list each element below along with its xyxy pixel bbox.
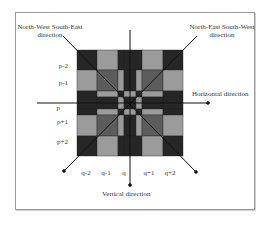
grid-cell [163,70,183,91]
grid-cell [136,115,142,136]
grid-cell [136,50,142,70]
grid-cell [163,115,183,136]
grid-cell [77,109,97,115]
row-label: p+2 [44,138,68,146]
vertical-direction-label: Vertical direction [102,190,150,198]
grid-cell [163,109,183,115]
grid-cell [97,109,118,115]
nw-se-label-line2: direction [14,31,86,39]
nw-se-direction-label: North-West South-East direction [14,23,86,39]
grid-cell [77,136,97,156]
grid-cell [97,70,118,91]
horizontal-direction-label: Horizontal direction [192,90,249,98]
nw-se-label-line1: North-West South-East [14,23,86,31]
col-label: q [118,169,130,177]
grid-cell [142,91,163,97]
row-label: p-1 [44,79,68,87]
grid-cell [136,70,142,91]
grid-cell [118,91,124,97]
grid-cell [97,91,118,97]
grid-cell [97,115,118,136]
grid-cell [118,136,124,156]
grid-cell [142,50,163,70]
ne-sw-label-line2: direction [186,31,258,39]
grid-cell [142,136,163,156]
row-label: p [44,104,60,112]
grid-cell [118,50,124,70]
ne-sw-direction-label: North-East South-West direction [186,23,258,39]
row-label: p-2 [44,62,68,70]
grid-cell [142,115,163,136]
grid-cell [163,91,183,97]
grid-cell [77,115,97,136]
grid-cell [163,136,183,156]
grid-cell [136,136,142,156]
grid-cell [142,109,163,115]
grid-cell [97,136,118,156]
grid-cell [97,50,118,70]
row-label: p+1 [44,118,68,126]
grid-cell [77,70,97,91]
ne-sw-label-line1: North-East South-West [186,23,258,31]
col-label: q+1 [141,169,157,177]
grid-cell [136,91,142,97]
col-label: q-2 [78,169,94,177]
col-label: q+2 [162,169,178,177]
grid-cell [118,115,124,136]
grid-cell [118,70,124,91]
grid-cell [118,109,124,115]
col-label: q-1 [98,169,114,177]
grid-cell [77,91,97,97]
